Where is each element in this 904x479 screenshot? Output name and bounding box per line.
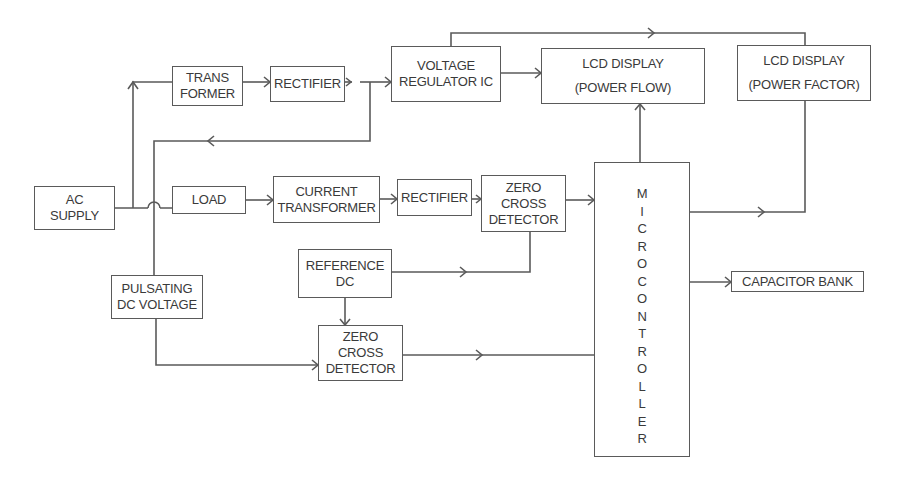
block-label: CAPACITOR BANK — [742, 274, 853, 290]
mcu-letter: R — [637, 430, 646, 448]
block-label: RECTIFIER — [401, 190, 468, 206]
block-label: SUPPLY — [50, 208, 99, 224]
mcu-letter: M — [637, 185, 648, 203]
mcu-letter: E — [638, 413, 646, 431]
zero-cross-detector-bottom-block: ZERO CROSS DETECTOR — [318, 325, 403, 381]
mcu-letter: O — [637, 290, 647, 308]
reference-dc-block: REFERENCE DC — [298, 249, 392, 298]
mcu-letter: C — [637, 220, 646, 238]
block-label: LOAD — [192, 192, 227, 208]
mcu-letter: O — [637, 255, 647, 273]
wire-ac-to-transformer — [133, 82, 172, 208]
block-label: REFERENCE — [306, 258, 384, 274]
pulsating-dc-voltage-block: PULSATING DC VOLTAGE — [111, 275, 203, 319]
load-block: LOAD — [172, 186, 246, 214]
block-label: AC — [66, 192, 84, 208]
block-label: PULSATING — [122, 281, 193, 297]
rectifier-mid-block: RECTIFIER — [397, 179, 472, 216]
block-label: DETECTOR — [489, 212, 559, 228]
block-label: CURRENT — [295, 184, 357, 200]
mcu-letter: C — [637, 273, 646, 291]
zero-cross-detector-top-block: ZERO CROSS DETECTOR — [481, 175, 566, 232]
mcu-letter: T — [638, 325, 646, 343]
microcontroller-block: M I C R O C O N T R O L L E R — [594, 162, 690, 457]
voltage-regulator-block: VOLTAGE REGULATOR IC — [391, 46, 501, 102]
block-label: DETECTOR — [326, 361, 396, 377]
ac-supply-block: AC SUPPLY — [34, 186, 115, 230]
mcu-letter: R — [637, 343, 646, 361]
mcu-letter: R — [637, 238, 646, 256]
block-label: DC — [336, 274, 354, 290]
block-label: LCD DISPLAY — [763, 49, 844, 73]
block-label: (POWER FACTOR) — [748, 73, 859, 97]
transformer-block: TRANS FORMER — [172, 66, 243, 106]
block-label: (POWER FLOW) — [575, 76, 672, 100]
block-label: REGULATOR IC — [399, 74, 493, 90]
rectifier-top-block: RECTIFIER — [270, 66, 345, 102]
block-label: CROSS — [501, 196, 546, 212]
lcd-power-flow-block: LCD DISPLAY (POWER FLOW) — [541, 48, 705, 104]
lcd-power-factor-block: LCD DISPLAY (POWER FACTOR) — [737, 45, 871, 101]
block-label: TRANSFORMER — [277, 200, 375, 216]
block-label: CROSS — [338, 345, 383, 361]
block-label: LCD DISPLAY — [582, 52, 663, 76]
block-label: ZERO — [506, 180, 541, 196]
capacitor-bank-block: CAPACITOR BANK — [731, 271, 864, 292]
mcu-letter: L — [638, 378, 645, 396]
mcu-letter: L — [638, 395, 645, 413]
block-label: VOLTAGE — [417, 58, 475, 74]
block-label: FORMER — [180, 86, 235, 102]
current-transformer-block: CURRENT TRANSFORMER — [273, 176, 380, 223]
block-label: ZERO — [343, 329, 378, 345]
block-label: TRANS — [186, 70, 229, 86]
block-label: RECTIFIER — [274, 76, 341, 92]
mcu-letter: O — [637, 360, 647, 378]
mcu-letter: I — [640, 203, 643, 221]
block-label: DC VOLTAGE — [117, 297, 197, 313]
mcu-letter: N — [637, 308, 646, 326]
